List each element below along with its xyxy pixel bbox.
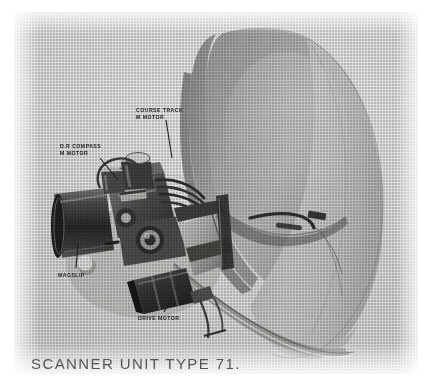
figure-caption: SCANNER UNIT TYPE 71. xyxy=(31,355,241,372)
magslip-cylinder-endcap xyxy=(51,194,65,258)
callout-dr-compass-line1: D.R COMPASS xyxy=(60,143,101,150)
mechanism-svg xyxy=(14,12,418,374)
callout-course-track-m-motor: COURSE TRACK M MOTOR xyxy=(136,107,183,120)
photographic-plate: COURSE TRACK M MOTOR D.R COMPASS M MOTOR… xyxy=(14,12,418,374)
callout-drive-motor-line1: DRIVE MOTOR xyxy=(138,315,179,322)
callout-dr-compass-line2: M MOTOR xyxy=(60,150,101,157)
scanner-unit-figure: COURSE TRACK M MOTOR D.R COMPASS M MOTOR… xyxy=(0,0,432,389)
support-leg-2 xyxy=(214,298,223,332)
callout-course-track-line2: M MOTOR xyxy=(136,114,183,121)
support-leg-1 xyxy=(200,300,209,338)
leader-line-course-track xyxy=(166,120,172,158)
flange-ring-inner xyxy=(121,213,131,223)
shaft-pin xyxy=(106,242,118,244)
mechanism-group xyxy=(14,12,418,374)
magslip-boss-face xyxy=(78,256,93,271)
callout-drive-motor: DRIVE MOTOR xyxy=(138,315,179,322)
callout-magslip-line1: MAGSLIP xyxy=(58,272,85,279)
support-foot xyxy=(204,330,226,336)
callout-course-track-line1: COURSE TRACK xyxy=(136,107,183,114)
callout-dr-compass-m-motor: D.R COMPASS M MOTOR xyxy=(60,143,101,156)
callout-magslip: MAGSLIP xyxy=(58,272,85,279)
bearing-ring-hilite xyxy=(144,233,150,239)
